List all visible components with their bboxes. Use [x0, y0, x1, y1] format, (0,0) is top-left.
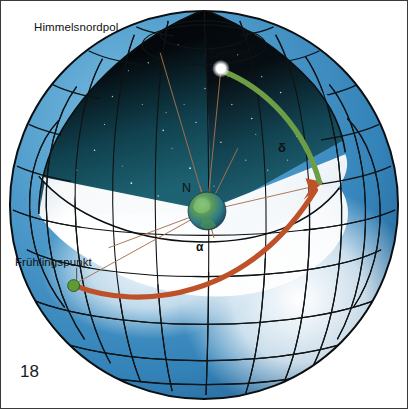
- celestial-sphere-figure: Himmelsnordpol Gestirn Frühlingspunkt δ …: [0, 0, 408, 409]
- sphere-highlight-left: [41, 200, 260, 339]
- vernal-equinox-point: [68, 280, 80, 292]
- star-point: [216, 63, 227, 74]
- celestial-sphere-illustration: [1, 1, 407, 408]
- earth-globe: [188, 192, 226, 230]
